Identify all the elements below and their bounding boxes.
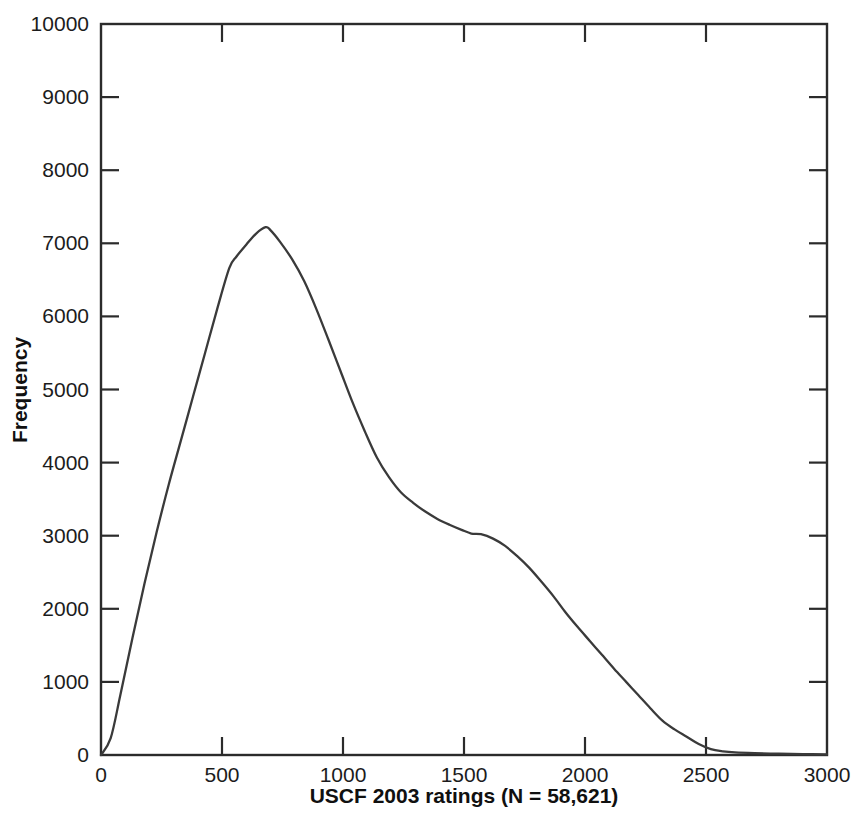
y-tick-label-0: 0 xyxy=(77,743,89,766)
y-tick-label-2000: 2000 xyxy=(42,597,89,620)
line-chart-svg: 0100020003000400050006000700080009000100… xyxy=(0,0,863,826)
y-tick-label-10000: 10000 xyxy=(31,12,89,35)
x-axis-ticks-bottom xyxy=(222,737,706,755)
x-tick-label-0: 0 xyxy=(95,763,107,786)
y-tick-label-5000: 5000 xyxy=(42,378,89,401)
y-tick-label-7000: 7000 xyxy=(42,231,89,254)
y-axis-title: Frequency xyxy=(8,337,31,444)
plot-frame xyxy=(101,24,827,755)
y-tick-label-8000: 8000 xyxy=(42,158,89,181)
y-axis-ticks-left xyxy=(101,97,119,682)
x-tick-label-1000: 1000 xyxy=(320,763,367,786)
x-tick-label-500: 500 xyxy=(204,763,239,786)
y-axis-tick-labels: 0100020003000400050006000700080009000100… xyxy=(31,12,89,766)
x-tick-label-2000: 2000 xyxy=(562,763,609,786)
x-axis-tick-labels: 050010001500200025003000 xyxy=(95,763,850,786)
y-tick-label-3000: 3000 xyxy=(42,524,89,547)
x-tick-label-1500: 1500 xyxy=(441,763,488,786)
y-tick-label-4000: 4000 xyxy=(42,451,89,474)
x-axis-ticks-top xyxy=(222,24,706,42)
y-axis-ticks-right xyxy=(809,97,827,682)
x-axis-title: USCF 2003 ratings (N = 58,621) xyxy=(310,784,619,807)
y-tick-label-6000: 6000 xyxy=(42,304,89,327)
y-tick-label-1000: 1000 xyxy=(42,670,89,693)
y-tick-label-9000: 9000 xyxy=(42,85,89,108)
chart-figure: 0100020003000400050006000700080009000100… xyxy=(0,0,863,826)
frequency-distribution-curve xyxy=(101,227,827,755)
x-tick-label-3000: 3000 xyxy=(804,763,851,786)
x-tick-label-2500: 2500 xyxy=(683,763,730,786)
